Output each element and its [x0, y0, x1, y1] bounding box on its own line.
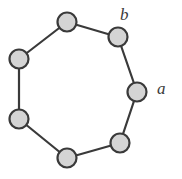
vertex-top — [58, 13, 77, 32]
nodes-group — [10, 13, 147, 168]
label-b: b — [120, 6, 129, 23]
vertex-bottom-right — [111, 134, 130, 153]
vertex-bottom-left — [10, 110, 29, 129]
graph-canvas — [0, 0, 182, 179]
vertex-left — [10, 50, 29, 69]
cycle-graph-figure: b a — [0, 0, 182, 179]
vertex-top-right — [109, 28, 128, 47]
vertex-bottom — [58, 149, 77, 168]
vertex-right — [128, 83, 147, 102]
label-a: a — [157, 80, 166, 97]
